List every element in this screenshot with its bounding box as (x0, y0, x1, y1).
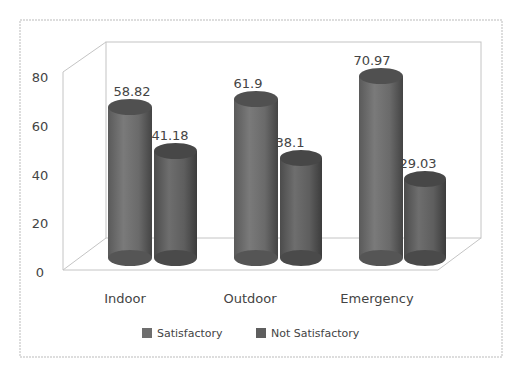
legend-swatch-not-satisfactory (256, 328, 266, 338)
legend-label-not-satisfactory: Not Satisfactory (271, 327, 360, 340)
y-tick-0: 0 (36, 265, 44, 280)
bar-chart: 80 60 40 20 0 (0, 0, 520, 378)
y-tick-40: 40 (32, 168, 49, 183)
y-tick-60: 60 (32, 119, 49, 134)
bar-emergency-satisfactory (359, 68, 403, 266)
label-outdoor-satisfactory: 61.9 (234, 76, 263, 91)
bar-outdoor-not-satisfactory (280, 150, 322, 266)
bar-emergency-not-satisfactory (404, 171, 446, 266)
bar-indoor-not-satisfactory (154, 143, 197, 266)
category-indoor: Indoor (104, 291, 146, 306)
y-tick-80: 80 (32, 70, 49, 85)
bar-indoor-satisfactory (108, 99, 152, 266)
label-emergency-not-satisfactory: 29.03 (399, 156, 436, 171)
label-indoor-not-satisfactory: 41.18 (151, 128, 188, 143)
category-outdoor: Outdoor (223, 291, 277, 306)
label-indoor-satisfactory: 58.82 (113, 84, 150, 99)
bar-outdoor-satisfactory (234, 91, 278, 266)
label-emergency-satisfactory: 70.97 (353, 53, 390, 68)
legend-swatch-satisfactory (142, 328, 152, 338)
legend-label-satisfactory: Satisfactory (157, 327, 223, 340)
label-outdoor-not-satisfactory: 38.1 (276, 135, 305, 150)
category-emergency: Emergency (340, 291, 414, 306)
y-tick-20: 20 (32, 216, 49, 231)
